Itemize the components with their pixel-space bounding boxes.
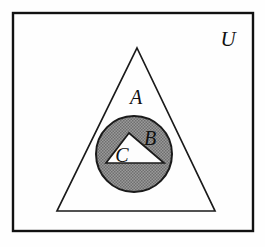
venn-diagram-figure: U A B C: [0, 0, 265, 247]
universe-label: U: [220, 27, 237, 51]
set-a-label: A: [128, 86, 143, 108]
set-b-label: B: [144, 127, 156, 149]
set-c-label: C: [115, 144, 129, 166]
venn-diagram-canvas: U A B C: [0, 0, 265, 247]
